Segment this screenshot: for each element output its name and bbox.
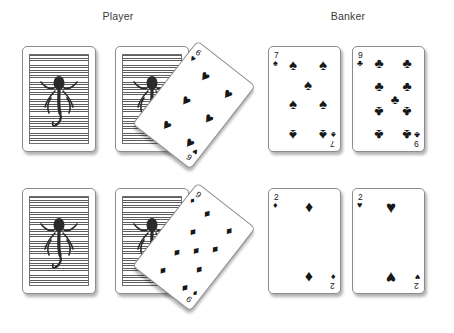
- card-pip: ♦: [305, 269, 313, 285]
- card-corner-pip-bottom-right: ♣: [414, 130, 420, 139]
- card-pip: ♥: [201, 109, 217, 126]
- card-pip: ♦: [193, 262, 206, 276]
- card-pip: ♣: [391, 93, 400, 106]
- card-pip: ♠: [319, 128, 327, 143]
- card-corner-pip-bottom-right: ♠: [331, 130, 336, 139]
- card-illustration: Player Banker: [0, 0, 454, 333]
- card-pip: ♦: [157, 263, 170, 277]
- card-pip: ♠: [289, 128, 297, 143]
- banker-card-2-of-hearts[interactable]: 2 ♥ 2 ♥ ♥ ♥: [352, 188, 425, 294]
- card-pip: ♠: [304, 77, 312, 92]
- card-face: 9 ♣ 9 ♣ ♣ ♣ ♣ ♣ ♣ ♣ ♣ ♣ ♣: [353, 47, 424, 151]
- card-pip: ♣: [402, 79, 411, 93]
- card-face: 7 ♠ 7 ♠ ♠ ♠ ♠ ♠ ♠ ♠ ♠: [269, 47, 340, 151]
- banker-card-2-of-diamonds[interactable]: 2 ♦ 2 ♦ ♦ ♦: [268, 188, 341, 294]
- card-corner-pip-bottom-right: ♦: [191, 288, 200, 298]
- card-corner-pip-top-left: ♦: [188, 196, 197, 206]
- card-back-pattern: [29, 196, 89, 286]
- card-pip: ♥: [197, 67, 213, 84]
- card-corner-pip-top-left: ♣: [357, 59, 363, 68]
- card-pip: ♦: [190, 243, 203, 257]
- player-side-label: Player: [103, 10, 134, 22]
- banker-card-7-of-spades[interactable]: 7 ♠ 7 ♠ ♠ ♠ ♠ ♠ ♠ ♠ ♠: [268, 46, 341, 152]
- octopus-icon: [39, 210, 79, 272]
- card-corner-pip-top-left: ♦: [273, 201, 278, 210]
- card-pip: ♣: [402, 105, 411, 119]
- card-pip: ♥: [386, 199, 396, 216]
- card-corner-pip-top-left: ♥: [188, 54, 198, 64]
- card-pip: ♦: [171, 245, 184, 259]
- player-card-facedown-row2-1[interactable]: [22, 188, 96, 294]
- card-pip: ♦: [305, 199, 313, 215]
- card-pip: ♠: [289, 96, 297, 111]
- card-pip: ♦: [179, 280, 192, 294]
- card-pip: ♦: [187, 224, 200, 238]
- card-pip: ♦: [223, 223, 236, 237]
- card-back-pattern: [29, 54, 89, 144]
- card-corner-pip-top-left: ♠: [273, 59, 278, 68]
- card-pip: ♣: [374, 79, 383, 93]
- card-corner-pip-top-left: ♥: [357, 201, 362, 210]
- banker-side-label: Banker: [331, 10, 365, 22]
- card-face: 2 ♥ 2 ♥ ♥ ♥: [353, 189, 424, 293]
- card-pip: ♠: [319, 96, 327, 111]
- card-pip: ♣: [402, 56, 411, 70]
- card-pip: ♥: [159, 116, 175, 133]
- card-pip: ♣: [374, 105, 383, 119]
- card-pip: ♣: [402, 128, 411, 142]
- card-pip: ♣: [374, 128, 383, 142]
- player-card-facedown-row1-1[interactable]: [22, 46, 96, 152]
- card-pip: ♠: [289, 57, 297, 72]
- card-corner-pip-bottom-right: ♥: [415, 272, 420, 281]
- card-pip: ♣: [374, 56, 383, 70]
- card-pip: ♥: [386, 269, 396, 286]
- card-pip: ♥: [178, 92, 194, 109]
- card-pip: ♦: [209, 241, 222, 255]
- card-pip: ♠: [319, 57, 327, 72]
- card-face: 2 ♦ 2 ♦ ♦ ♦: [269, 189, 340, 293]
- card-pip: ♥: [220, 85, 236, 102]
- card-pip: ♦: [201, 206, 214, 220]
- banker-card-9-of-clubs[interactable]: 9 ♣ 9 ♣ ♣ ♣ ♣ ♣ ♣ ♣ ♣ ♣ ♣: [352, 46, 425, 152]
- card-corner-pip-bottom-right: ♦: [331, 272, 336, 281]
- octopus-icon: [39, 68, 79, 130]
